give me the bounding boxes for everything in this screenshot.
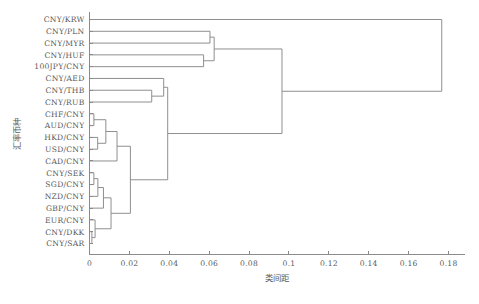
leaf-label: HKD/CNY	[44, 133, 85, 142]
leaf-label: CNY/SAR	[46, 239, 84, 248]
dendrogram-canvas: 00.020.040.060.080.10.120.140.160.18 CNY…	[0, 0, 479, 304]
leaf-label: SGD/CNY	[45, 180, 85, 189]
dendrogram-link	[90, 90, 152, 102]
x-axis-tick-label: 0.14	[360, 259, 378, 268]
x-axis-tick-label: 0.12	[320, 259, 338, 268]
dendrogram-link	[130, 87, 167, 179]
leaf-label: CNY/KRW	[44, 15, 85, 24]
dendrogram-link	[111, 146, 130, 213]
dendrogram-link	[204, 37, 215, 61]
dendrogram-link	[90, 78, 164, 96]
leaf-label: CNY/PLN	[46, 27, 85, 36]
leaf-label: 100JPY/CNY	[34, 62, 85, 71]
y-axis-title: 汇率币种	[12, 118, 22, 150]
leaf-label: CAD/CNY	[45, 157, 85, 166]
leaf-label: CNY/RUB	[45, 98, 85, 107]
dendrogram-link	[90, 114, 94, 126]
dendrogram-link	[90, 20, 442, 92]
leaf-label: AUD/CNY	[44, 121, 85, 130]
leaf-label: CHF/CNY	[45, 110, 85, 119]
dendrogram-link	[90, 137, 98, 149]
x-axis-tick-label: 0.16	[400, 259, 418, 268]
leaf-label: CNY/THB	[45, 86, 84, 95]
dendrogram-link	[168, 49, 282, 134]
x-axis-tick-label: 0.08	[240, 259, 258, 268]
leaf-label: CNY/AED	[46, 74, 85, 83]
x-axis-tick-label: 0.04	[160, 259, 178, 268]
dendrogram-link	[90, 188, 104, 209]
x-axis-title: 类间距	[265, 273, 290, 283]
x-axis-tick-label: 0.1	[283, 259, 296, 268]
x-axis-tick-label: 0.02	[120, 259, 138, 268]
dendrogram-link	[90, 132, 118, 161]
leaf-label: CNY/HUF	[44, 51, 84, 60]
leaf-label: CNY/SEK	[46, 169, 84, 178]
leaf-label: GBP/CNY	[46, 204, 85, 213]
leaf-label: CNY/MYR	[44, 39, 84, 48]
x-axis-tick-label: 0.06	[200, 259, 218, 268]
dendrogram-link	[90, 55, 204, 67]
dendrogram-link	[90, 173, 94, 185]
leaf-label: NZD/CNY	[45, 192, 86, 201]
x-axis: 00.020.040.060.080.10.120.140.160.18	[87, 12, 465, 268]
dendrogram-link	[90, 31, 210, 43]
dendrogram-link	[94, 120, 106, 144]
x-axis-tick-label: 0.18	[440, 259, 458, 268]
x-axis-tick-label: 0	[87, 259, 92, 268]
leaf-label: USD/CNY	[45, 145, 85, 154]
leaf-label: CNY/DKK	[45, 228, 84, 237]
dendrogram-figure: 00.020.040.060.080.10.120.140.160.18 CNY…	[0, 0, 479, 304]
leaf-label: EUR/CNY	[45, 216, 85, 225]
dendrogram-links	[90, 20, 442, 244]
leaf-labels: CNY/KRWCNY/PLNCNY/MYRCNY/HUF100JPY/CNYCN…	[34, 15, 93, 248]
